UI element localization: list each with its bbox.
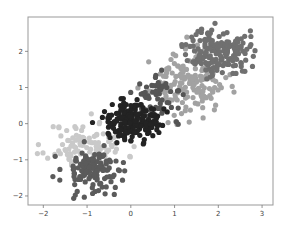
data-point [175, 88, 180, 93]
data-point [92, 152, 97, 157]
data-point [148, 122, 153, 127]
data-point [127, 120, 132, 125]
data-point [240, 69, 245, 74]
data-point [89, 111, 94, 116]
data-point [192, 82, 197, 87]
data-point [107, 165, 112, 170]
data-point [210, 73, 215, 78]
data-point [191, 38, 196, 43]
data-point [149, 106, 154, 111]
data-point [198, 38, 203, 43]
data-point [165, 109, 170, 114]
data-point [163, 74, 168, 79]
data-point [68, 152, 73, 157]
data-point [112, 192, 117, 197]
data-point [166, 120, 171, 125]
data-point [183, 52, 188, 57]
data-point [121, 160, 126, 165]
data-point [92, 140, 97, 145]
data-point [141, 141, 146, 146]
data-point [145, 131, 150, 136]
data-point [164, 66, 169, 71]
data-point [108, 179, 113, 184]
data-point [50, 174, 55, 179]
data-point [203, 60, 208, 65]
data-point [178, 80, 183, 85]
data-point [184, 35, 189, 40]
x-tick-label: 3 [260, 210, 264, 218]
data-point [201, 115, 206, 120]
data-point [196, 89, 201, 94]
data-point [128, 114, 133, 119]
data-point [92, 172, 97, 177]
data-point [248, 28, 253, 33]
data-point [212, 21, 217, 26]
data-point [200, 89, 205, 94]
data-point [185, 58, 190, 63]
data-point [141, 114, 146, 119]
data-point [75, 189, 80, 194]
data-point [101, 131, 106, 136]
data-point [218, 53, 223, 58]
data-point [199, 74, 204, 79]
data-point [83, 170, 88, 175]
data-point [152, 112, 157, 117]
data-point [217, 34, 222, 39]
data-point [173, 74, 178, 79]
data-point [210, 57, 215, 62]
data-point [117, 168, 122, 173]
data-point [106, 148, 111, 153]
data-point [120, 178, 125, 183]
data-point [195, 101, 200, 106]
data-point [213, 103, 218, 108]
data-point [159, 68, 164, 73]
data-point [144, 84, 149, 89]
data-point [156, 80, 161, 85]
data-point [113, 129, 118, 134]
data-point [80, 151, 85, 156]
data-point [83, 179, 88, 184]
data-point [163, 81, 168, 86]
data-point [149, 83, 154, 88]
data-point [183, 104, 188, 109]
data-point [113, 185, 118, 190]
data-point [214, 68, 219, 73]
data-point [168, 89, 173, 94]
data-point [63, 148, 68, 153]
data-point [233, 63, 238, 68]
data-point [239, 36, 244, 41]
data-point [80, 124, 85, 129]
data-point [135, 111, 140, 116]
x-tick-label: 0 [129, 210, 133, 218]
data-point [190, 95, 195, 100]
data-point [58, 133, 63, 138]
data-point [57, 167, 62, 172]
data-point [137, 81, 142, 86]
data-point [72, 171, 77, 176]
data-point [176, 106, 181, 111]
data-point [205, 31, 210, 36]
data-point [250, 64, 255, 69]
data-point [172, 61, 177, 66]
data-point [119, 115, 124, 120]
data-point [137, 133, 142, 138]
y-tick-label: 2 [19, 48, 23, 56]
data-point [106, 132, 111, 137]
data-point [193, 61, 198, 66]
data-point [128, 90, 133, 95]
data-point [188, 108, 193, 113]
data-point [160, 123, 165, 128]
data-point [97, 155, 102, 160]
data-point [187, 81, 192, 86]
data-point [172, 113, 177, 118]
data-point [87, 140, 92, 145]
data-point [240, 49, 245, 54]
y-axis: −2−1012 [13, 48, 28, 201]
data-point [224, 51, 229, 56]
data-point [90, 157, 95, 162]
data-point [57, 178, 62, 183]
data-point [35, 151, 40, 156]
data-point [179, 111, 184, 116]
data-point [180, 65, 185, 70]
data-point [219, 57, 224, 62]
